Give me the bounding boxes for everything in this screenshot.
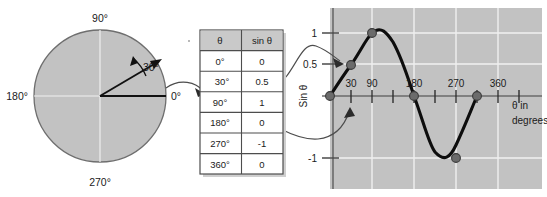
- circle-label-180: 180°: [6, 90, 28, 102]
- artifact-dot: [188, 40, 190, 42]
- circle-label-90: 90°: [92, 12, 108, 24]
- sine-table: θ sin θ 0° 0 30° 0.5 90° 1 180° 0 270° -…: [200, 30, 286, 177]
- chart-ytick-label-neg1: -1: [308, 153, 317, 164]
- table-cell-theta-0: 0°: [215, 56, 224, 67]
- chart-xtick-label-180: 180: [406, 78, 423, 89]
- circle-label-angle: 30°: [143, 61, 159, 73]
- table-cell-theta-5: 360°: [210, 159, 230, 170]
- table-cell-theta-3: 180°: [210, 117, 230, 128]
- chart-ytick-label-05: 0.5: [303, 59, 317, 70]
- chart-x-axis-title-line1: θ in: [512, 100, 528, 111]
- chart-marker-270: [452, 154, 461, 163]
- chart-y-axis-title: Sin θ: [298, 84, 309, 107]
- figure-root: 1 0.5 -1 30 90 180 270 360 Sin θ θ in de…: [0, 0, 547, 197]
- table-cell-sin-3: 0: [259, 117, 264, 128]
- unit-circle-diagram: 90° 180° 270° 0° 30°: [6, 12, 181, 188]
- table-header-sin: sin θ: [252, 35, 272, 46]
- table-header-theta: θ: [217, 35, 222, 46]
- chart-xtick-label-270: 270: [448, 78, 465, 89]
- chart-marker-360: [473, 92, 482, 101]
- circle-label-0: 0°: [171, 90, 181, 102]
- chart-x-axis-title-line2: degrees: [512, 115, 547, 126]
- chart-xtick-label-30: 30: [345, 78, 357, 89]
- table-cell-theta-1: 30°: [215, 76, 230, 87]
- chart-xtick-label-360: 360: [490, 78, 507, 89]
- table-cell-theta-2: 90°: [213, 97, 228, 108]
- chart-panel: 1 0.5 -1 30 90 180 270 360 Sin θ θ in de…: [298, 8, 547, 189]
- table-cell-sin-4: -1: [258, 138, 266, 149]
- figure-canvas: 1 0.5 -1 30 90 180 270 360 Sin θ θ in de…: [0, 0, 547, 197]
- chart-marker-0: [326, 92, 335, 101]
- table-cell-sin-5: 0: [259, 159, 264, 170]
- table-cell-sin-1: 0.5: [255, 76, 268, 87]
- chart-xtick-label-90: 90: [366, 78, 378, 89]
- table-cell-theta-4: 270°: [210, 138, 230, 149]
- chart-background: [330, 8, 542, 189]
- chart-ytick-label-1: 1: [311, 28, 317, 39]
- table-cell-sin-2: 1: [259, 97, 264, 108]
- chart-marker-30: [347, 61, 356, 70]
- chart-marker-90: [368, 29, 377, 38]
- chart-marker-180: [410, 92, 419, 101]
- circle-label-270: 270°: [89, 176, 111, 188]
- table-cell-sin-0: 0: [259, 56, 264, 67]
